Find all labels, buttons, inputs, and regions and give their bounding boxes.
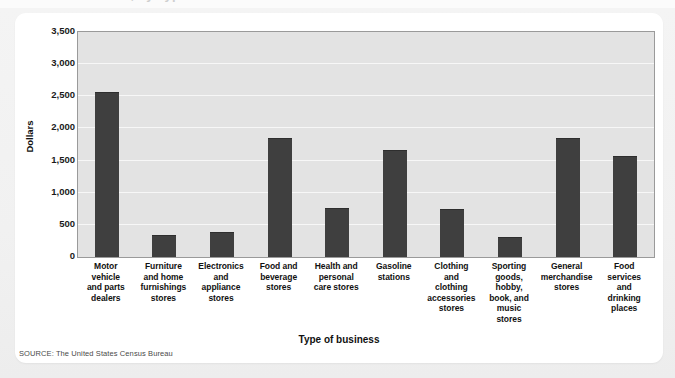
y-axis-ticks: 05001,0001,5002,0002,5003,0003,500 — [15, 13, 75, 363]
bar[interactable] — [152, 235, 176, 257]
x-axis-tick-label: Gasolinestations — [365, 261, 423, 282]
plot-area — [77, 31, 655, 258]
gridline — [78, 63, 654, 64]
gridline — [78, 95, 654, 96]
y-axis-tick-label: 3,000 — [19, 58, 75, 68]
y-axis-tick-label: 500 — [19, 219, 75, 229]
bar[interactable] — [325, 208, 349, 257]
x-axis-title: Type of business — [15, 334, 663, 345]
y-axis-title: Dollars — [24, 107, 35, 167]
bar[interactable] — [440, 209, 464, 257]
source-note: SOURCE: The United States Census Bureau — [19, 349, 173, 358]
bar[interactable] — [498, 237, 522, 257]
bar[interactable] — [556, 138, 580, 257]
gridline — [78, 127, 654, 128]
bar[interactable] — [210, 232, 234, 257]
x-axis-tick-label: Generalmerchandisestores — [538, 261, 596, 293]
y-axis-tick-label: 0 — [19, 251, 75, 261]
x-axis-tick-label: Foodservicesanddrinkingplaces — [595, 261, 653, 314]
chart-card: 05001,0001,5002,0002,5003,0003,500 Dolla… — [15, 13, 663, 363]
x-axis-tick-label: Motorvehicleand partsdealers — [77, 261, 135, 303]
x-axis-tick-label: Health andpersonalcare stores — [307, 261, 365, 293]
x-axis-tick-label: Food andbeveragestores — [250, 261, 308, 293]
bar[interactable] — [613, 156, 637, 257]
y-axis-tick-label: 3,500 — [19, 26, 75, 36]
x-axis-tick-label: Sportinggoods,hobby,book, andmusicstores — [480, 261, 538, 325]
bar[interactable] — [268, 138, 292, 257]
x-axis-tick-label: Clothingandclothingaccessoriesstores — [423, 261, 481, 314]
y-axis-tick-label: 2,500 — [19, 91, 75, 101]
x-axis-tick-label: Electronicsandappliancestores — [192, 261, 250, 303]
x-axis-tick-label: Furnitureand homefurnishingsstores — [135, 261, 193, 303]
bar[interactable] — [95, 92, 119, 257]
bar[interactable] — [383, 150, 407, 257]
y-axis-tick-label: 1,000 — [19, 187, 75, 197]
figure-title-ghost: Retail Sales, by Type of Business — [55, 0, 267, 2]
